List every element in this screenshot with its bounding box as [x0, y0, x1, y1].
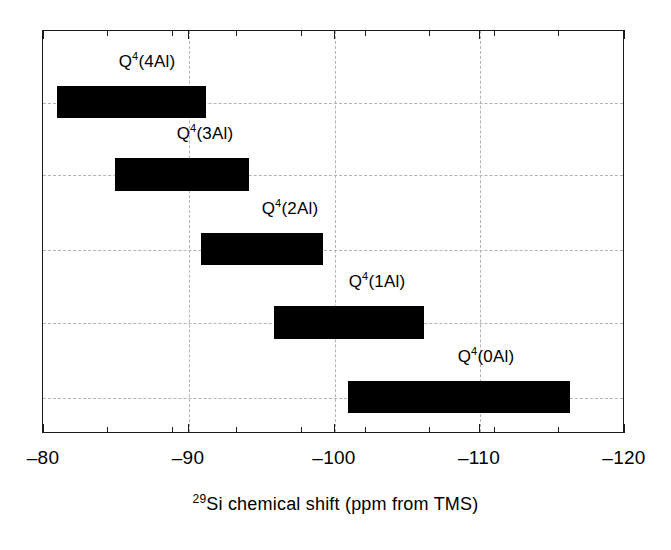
- x-tick-minor-bottom-6: [494, 427, 495, 433]
- gridline-vertical-1: [335, 31, 336, 432]
- x-tick-label-3: –110: [458, 447, 500, 469]
- x-tick-major-top-1: [188, 30, 189, 39]
- x-tick-minor-bottom-0: [107, 427, 108, 433]
- label-tail: (2Al): [281, 199, 318, 218]
- x-tick-minor-top-6: [494, 30, 495, 36]
- bar-q4-4al: [57, 86, 206, 118]
- x-tick-minor-bottom-7: [558, 427, 559, 433]
- label-tail: (4Al): [138, 52, 175, 71]
- x-tick-major-bottom-4: [624, 424, 625, 433]
- x-tick-minor-bottom-3: [301, 427, 302, 433]
- label-tail: (3Al): [196, 124, 233, 143]
- x-tick-minor-bottom-4: [365, 427, 366, 433]
- bar-q4-3al: [115, 158, 249, 191]
- x-tick-major-bottom-2: [334, 424, 335, 433]
- x-tick-minor-top-5: [429, 30, 430, 36]
- axis-title-text: Si chemical shift (ppm from TMS): [206, 494, 478, 514]
- chart-figure: Q4(4Al)Q4(3Al)Q4(2Al)Q4(1Al)Q4(0Al) –80–…: [0, 0, 671, 550]
- x-tick-major-top-2: [334, 30, 335, 39]
- axis-title-superscript: 29: [193, 492, 207, 506]
- label-q: Q: [458, 347, 471, 366]
- x-tick-label-4: –120: [602, 447, 645, 469]
- x-tick-label-1: –90: [172, 447, 205, 469]
- x-tick-minor-top-4: [365, 30, 366, 36]
- label-q: Q: [349, 272, 362, 291]
- label-q: Q: [177, 124, 190, 143]
- bar-q4-0al: [348, 381, 570, 413]
- x-tick-major-top-4: [624, 30, 625, 39]
- x-tick-minor-top-1: [172, 30, 173, 36]
- x-tick-minor-top-3: [301, 30, 302, 36]
- x-tick-label-0: –80: [27, 447, 60, 469]
- x-tick-major-bottom-3: [479, 424, 480, 433]
- bar-q4-1al-label: Q4(1Al): [349, 272, 406, 292]
- bar-q4-1al: [274, 306, 424, 339]
- gridline-horizontal-2: [43, 250, 623, 251]
- gridline-vertical-2: [480, 31, 481, 432]
- bar-q4-3al-label: Q4(3Al): [177, 124, 234, 144]
- x-tick-major-bottom-1: [188, 424, 189, 433]
- label-tail: (0Al): [477, 347, 514, 366]
- label-q: Q: [262, 199, 275, 218]
- bar-q4-2al: [201, 233, 323, 265]
- bar-q4-2al-label: Q4(2Al): [262, 199, 319, 219]
- x-tick-major-bottom-0: [43, 424, 44, 433]
- label-q: Q: [119, 52, 132, 71]
- x-tick-label-2: –100: [312, 447, 355, 469]
- x-tick-minor-top-7: [558, 30, 559, 36]
- x-axis-title: 29Si chemical shift (ppm from TMS): [0, 494, 671, 515]
- x-tick-minor-bottom-1: [172, 427, 173, 433]
- x-tick-major-top-0: [43, 30, 44, 39]
- x-tick-minor-top-0: [107, 30, 108, 36]
- x-tick-minor-bottom-5: [429, 427, 430, 433]
- label-tail: (1Al): [368, 272, 405, 291]
- x-tick-minor-top-2: [236, 30, 237, 36]
- bar-q4-4al-label: Q4(4Al): [119, 52, 176, 72]
- x-tick-major-top-3: [479, 30, 480, 39]
- x-tick-minor-bottom-2: [236, 427, 237, 433]
- bar-q4-0al-label: Q4(0Al): [458, 347, 515, 367]
